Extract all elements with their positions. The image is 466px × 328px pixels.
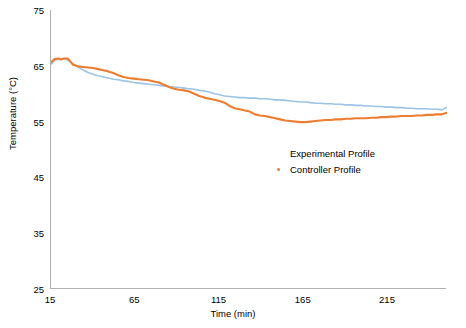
legend-swatch-experimental [272,148,286,158]
y-tick-label: 75 [8,5,44,16]
series-line-controller [51,59,447,123]
legend-item-controller: Controller Profile [272,161,375,177]
chart-container: 253545556575 1565115165215 Temperature (… [0,0,466,328]
legend-label-experimental: Experimental Profile [290,148,375,159]
legend-item-experimental: Experimental Profile [272,145,375,161]
x-tick-label: 215 [367,294,407,305]
legend-label-controller: Controller Profile [290,164,361,175]
chart-series-svg [51,10,447,289]
y-tick-label: 35 [8,228,44,239]
plot-area [50,10,446,289]
x-axis-title: Time (min) [0,308,466,319]
x-tick-label: 115 [199,294,239,305]
y-tick-label: 25 [8,284,44,295]
chart-legend: Experimental Profile Controller Profile [272,145,375,177]
x-tick-label: 65 [114,294,154,305]
legend-swatch-controller [272,164,286,174]
x-tick-label: 165 [283,294,323,305]
y-tick-label: 45 [8,172,44,183]
x-tick-label: 15 [30,294,70,305]
y-axis-title: Temperature (°C) [7,54,18,174]
series-line-experimental [51,59,447,110]
